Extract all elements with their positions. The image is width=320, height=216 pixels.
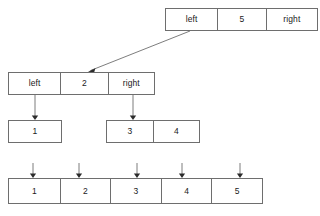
array-cell-5: 5 (211, 179, 262, 203)
root-left-pointer-cell: left (166, 9, 217, 30)
array-cell-3: 3 (110, 179, 161, 203)
array-cell-4: 4 (161, 179, 212, 203)
root-right-pointer-cell: right (266, 9, 317, 30)
left-child-left-pointer-cell: left (9, 73, 60, 94)
diagram-canvas: left 5 right left 2 right 1 3 4 1 2 3 4 … (0, 0, 320, 216)
root-value-cell: 5 (217, 9, 265, 30)
edge-level2-to-leaf-one (32, 95, 38, 120)
left-child-value-cell: 2 (60, 73, 107, 94)
left-child-node: left 2 right (8, 72, 155, 95)
leaf-node-pair: 3 4 (106, 120, 200, 143)
leaf-one-value-cell: 1 (9, 121, 61, 142)
edge-level2-to-leaf-pair (130, 95, 136, 120)
edge-to-array-cell-1 (30, 163, 36, 178)
array-cell-2: 2 (60, 179, 111, 203)
edge-to-array-cell-2 (76, 163, 82, 178)
edge-to-array-cell-4 (179, 163, 185, 178)
leaf-pair-second-cell: 4 (153, 121, 199, 142)
edge-root-to-left-child (88, 31, 190, 72)
result-array: 1 2 3 4 5 (8, 178, 263, 204)
leaf-node-one: 1 (8, 120, 62, 143)
root-node: left 5 right (165, 8, 318, 31)
edge-to-array-cell-3 (134, 163, 140, 178)
leaf-pair-first-cell: 3 (107, 121, 153, 142)
left-child-right-pointer-cell: right (108, 73, 154, 94)
array-cell-1: 1 (9, 179, 60, 203)
edge-to-array-cell-5 (237, 163, 243, 178)
